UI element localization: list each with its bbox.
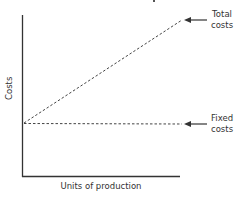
total-costs-arrow-icon (184, 17, 207, 23)
fixed-costs-label: Fixed costs (211, 113, 233, 135)
fixed-costs-label-line2: costs (211, 124, 233, 135)
x-axis-label: Units of production (0, 181, 202, 192)
cost-diagram (0, 0, 241, 197)
total-costs-line (24, 20, 182, 123)
total-costs-label-line2: costs (211, 20, 233, 31)
y-axis-label: Costs (4, 77, 15, 100)
fixed-costs-arrow-icon (184, 121, 207, 127)
total-costs-label: Total costs (211, 9, 233, 31)
fixed-costs-line (24, 124, 182, 125)
top-artifact (153, 0, 155, 2)
fixed-costs-label-line1: Fixed (211, 113, 233, 124)
total-costs-label-line1: Total (211, 9, 233, 20)
